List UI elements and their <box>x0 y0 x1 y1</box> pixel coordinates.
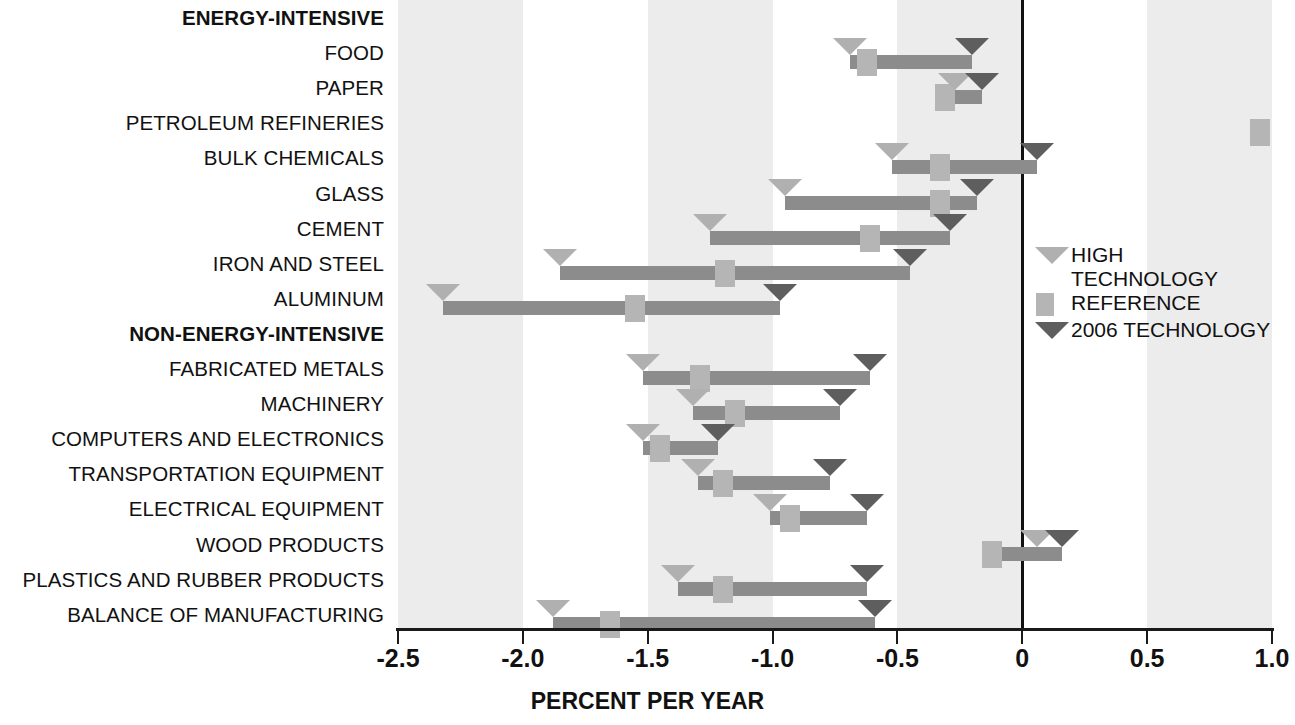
reference-marker <box>713 470 733 497</box>
reference-marker <box>625 295 645 322</box>
category-label: IRON AND STEEL <box>213 254 384 275</box>
category-label: BALANCE OF MANUFACTURING <box>67 605 384 626</box>
chart-root: ENERGY-INTENSIVEFOODPAPERPETROLEUM REFIN… <box>0 0 1295 725</box>
x-axis-tick-label: -1.5 <box>626 646 669 671</box>
category-label: FABRICATED METALS <box>169 359 384 380</box>
x-axis-tick-label: -1.0 <box>751 646 794 671</box>
reference-marker <box>1250 119 1270 146</box>
x-axis-tick <box>647 631 649 644</box>
high-technology-marker <box>681 459 715 476</box>
x-axis-tick <box>772 631 774 644</box>
chart-legend: HIGH TECHNOLOGY REFERENCE 2006 TECHNOLOG… <box>1033 243 1283 345</box>
reference-marker <box>860 225 880 252</box>
reference-marker <box>713 576 733 603</box>
high-technology-triangle-icon <box>1033 243 1071 269</box>
category-label: WOOD PRODUCTS <box>196 535 384 556</box>
high-technology-marker <box>693 214 727 231</box>
range-bar <box>443 301 780 315</box>
legend-item-2006-technology: 2006 TECHNOLOGY <box>1033 318 1283 344</box>
technology-2006-marker <box>853 354 887 371</box>
category-label: CEMENT <box>297 219 384 240</box>
x-axis-tick-label: 0 <box>1015 646 1029 671</box>
technology-2006-marker <box>850 565 884 582</box>
x-axis-tick-label: -2.5 <box>376 646 419 671</box>
x-axis-line <box>396 628 1274 631</box>
high-technology-marker <box>543 249 577 266</box>
group-header-label: ENERGY-INTENSIVE <box>182 8 384 29</box>
reference-marker <box>690 365 710 392</box>
x-axis-tick-label: 0.5 <box>1130 646 1165 671</box>
technology-2006-marker <box>823 389 857 406</box>
high-technology-marker <box>626 424 660 441</box>
range-bar <box>678 582 868 596</box>
high-technology-marker <box>661 565 695 582</box>
x-axis-tick-label: 1.0 <box>1255 646 1290 671</box>
category-label: FOOD <box>324 43 384 64</box>
legend-label-2006-technology: 2006 TECHNOLOGY <box>1071 318 1270 342</box>
legend-item-reference: REFERENCE <box>1033 291 1283 317</box>
category-label: ALUMINUM <box>274 289 384 310</box>
category-label: PETROLEUM REFINERIES <box>126 113 384 134</box>
high-technology-marker <box>753 494 787 511</box>
reference-marker <box>715 260 735 287</box>
group-header-label: NON-ENERGY-INTENSIVE <box>129 324 384 345</box>
category-label: PAPER <box>316 78 384 99</box>
range-bar <box>643 371 870 385</box>
row-label-column: ENERGY-INTENSIVEFOODPAPERPETROLEUM REFIN… <box>0 0 392 628</box>
high-technology-marker <box>768 179 802 196</box>
x-axis-tick <box>522 631 524 644</box>
category-label: MACHINERY <box>260 394 384 415</box>
technology-2006-marker <box>893 249 927 266</box>
technology-2006-marker <box>933 214 967 231</box>
range-bar <box>693 406 840 420</box>
high-technology-marker <box>626 354 660 371</box>
category-label: ELECTRICAL EQUIPMENT <box>129 499 384 520</box>
x-axis-tick <box>1021 631 1023 644</box>
reference-marker <box>930 154 950 181</box>
technology-2006-marker <box>955 38 989 55</box>
category-label: TRANSPORTATION EQUIPMENT <box>68 464 384 485</box>
reference-square-icon <box>1033 291 1071 317</box>
range-bar <box>992 547 1062 561</box>
category-label: GLASS <box>315 184 384 205</box>
x-axis-tick <box>1271 631 1273 644</box>
legend-item-high-technology: HIGH TECHNOLOGY <box>1033 243 1283 290</box>
x-axis-tick <box>1146 631 1148 644</box>
x-axis-tick <box>397 631 399 644</box>
technology-2006-marker <box>1020 143 1054 160</box>
reference-marker <box>725 400 745 427</box>
technology-2006-marker <box>850 494 884 511</box>
high-technology-marker <box>426 284 460 301</box>
high-technology-marker <box>833 38 867 55</box>
x-axis-tick-label: -0.5 <box>876 646 919 671</box>
x-axis-tick-label: -2.0 <box>501 646 544 671</box>
legend-label-high-technology: HIGH TECHNOLOGY <box>1071 243 1218 290</box>
reference-marker <box>982 541 1002 568</box>
technology-2006-marker <box>858 600 892 617</box>
range-bar <box>892 160 1037 174</box>
high-technology-marker <box>875 143 909 160</box>
reference-marker <box>930 190 950 217</box>
technology-2006-marker <box>960 179 994 196</box>
high-technology-marker <box>676 389 710 406</box>
technology-2006-triangle-icon <box>1033 318 1071 344</box>
category-label: COMPUTERS AND ELECTRONICS <box>51 429 384 450</box>
technology-2006-marker <box>965 73 999 90</box>
high-technology-marker <box>536 600 570 617</box>
x-axis-tick <box>896 631 898 644</box>
range-bar <box>710 231 950 245</box>
x-axis-title: PERCENT PER YEAR <box>0 688 1295 715</box>
reference-marker <box>600 611 620 638</box>
technology-2006-marker <box>813 459 847 476</box>
category-label: BULK CHEMICALS <box>204 148 384 169</box>
technology-2006-marker <box>1045 530 1079 547</box>
category-label: PLASTICS AND RUBBER PRODUCTS <box>22 570 384 591</box>
legend-label-reference: REFERENCE <box>1071 291 1201 315</box>
technology-2006-marker <box>701 424 735 441</box>
technology-2006-marker <box>763 284 797 301</box>
